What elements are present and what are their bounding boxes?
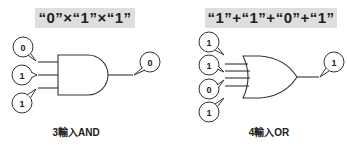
svg-text:1: 1 xyxy=(206,38,211,48)
and-input-bubble-2: 1 xyxy=(12,89,36,113)
and-gate-caption: 3輸入AND xyxy=(36,124,116,139)
and-input-bubble-1: 1 xyxy=(12,65,37,85)
or-gate-caption: 4輸入OR xyxy=(229,124,309,139)
svg-text:1: 1 xyxy=(19,99,24,109)
svg-text:0: 0 xyxy=(20,43,25,53)
or-input-bubble-3: 1 xyxy=(199,98,224,122)
and-gate xyxy=(38,55,133,95)
svg-text:0: 0 xyxy=(206,85,211,95)
or-input-bubble-1: 1 xyxy=(199,55,224,75)
or-input-bubble-2: 0 xyxy=(199,79,224,99)
svg-text:1: 1 xyxy=(206,108,211,118)
or-gate xyxy=(225,56,319,98)
and-output-bubble: 0 xyxy=(134,52,160,75)
svg-text:1: 1 xyxy=(331,58,336,68)
svg-text:0: 0 xyxy=(147,58,152,68)
svg-text:1: 1 xyxy=(19,71,24,81)
or-output-bubble: 1 xyxy=(320,52,344,77)
svg-text:1: 1 xyxy=(206,61,211,71)
and-input-bubble-0: 0 xyxy=(13,37,36,61)
or-input-bubble-0: 1 xyxy=(199,32,224,55)
